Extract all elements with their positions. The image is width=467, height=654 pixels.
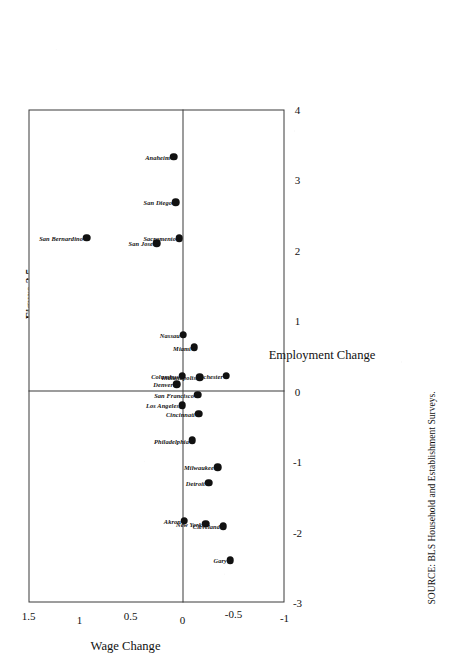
data-point xyxy=(226,556,234,564)
data-point-label: Philadelphia xyxy=(154,437,189,444)
data-point-label: San Francisco xyxy=(154,391,194,398)
scatter-chart: San BernardinoSan JoseSacramentoSan Dieg… xyxy=(1,110,313,603)
x-tick-label: 2 xyxy=(295,244,301,256)
data-point-label: Rochester xyxy=(195,372,222,379)
data-point xyxy=(173,380,181,388)
data-point-label: Cleveland xyxy=(192,523,219,530)
data-point-label: Miami xyxy=(173,344,191,351)
y-tick-label: -0.5 xyxy=(225,608,242,620)
data-point-label: San Bernardino xyxy=(40,234,84,241)
x-tick-label: -2 xyxy=(293,526,302,538)
data-point-label: Anaheim xyxy=(146,153,171,160)
y-tick-label: 1.5 xyxy=(22,610,36,622)
data-point xyxy=(194,391,202,399)
x-tick-label: 3 xyxy=(295,174,301,186)
data-point-label: Denver xyxy=(154,381,174,388)
data-point xyxy=(178,402,186,410)
x-tick-label: 4 xyxy=(295,104,301,116)
data-point-label: Detroit xyxy=(186,479,205,486)
data-point xyxy=(170,153,178,161)
y-tick-label: 0 xyxy=(179,614,185,626)
data-point-label: Los Angeles xyxy=(146,402,179,409)
x-tick-label: -3 xyxy=(293,597,302,609)
data-point-label: Gary xyxy=(213,557,227,564)
x-tick-label: 1 xyxy=(295,315,301,327)
data-point xyxy=(189,437,197,445)
y-axis-title: Wage Change xyxy=(91,639,161,654)
y-tick-label: -1 xyxy=(280,612,289,624)
data-point-label: Cincinnati xyxy=(166,410,195,417)
data-point-label: Milwaukee xyxy=(184,464,214,471)
data-point xyxy=(191,344,199,352)
data-point xyxy=(195,410,203,418)
source-note: SOURCE: BLS Household and Establishment … xyxy=(426,325,437,605)
data-point xyxy=(222,372,230,380)
data-point xyxy=(179,331,187,339)
zero-horizontal-line xyxy=(182,110,183,603)
x-tick-label: -1 xyxy=(293,456,302,468)
data-point-label: Indianapolis xyxy=(161,374,196,381)
data-point xyxy=(214,463,222,471)
x-tick-label: 0 xyxy=(295,385,301,397)
data-point xyxy=(175,235,183,243)
data-point-label: San Diego xyxy=(144,199,172,206)
data-point-label: Nassau xyxy=(159,331,179,338)
data-point xyxy=(219,523,227,531)
data-point xyxy=(205,479,213,487)
y-tick-label: 0.5 xyxy=(124,610,138,622)
x-axis-title: Employment Change xyxy=(269,349,376,364)
data-point xyxy=(83,234,91,242)
plot-frame xyxy=(29,110,285,603)
data-point-label: Sacramento xyxy=(143,235,176,242)
data-point xyxy=(172,199,180,207)
rotated-plot-container: San BernardinoSan JoseSacramentoSan Dieg… xyxy=(1,110,313,603)
y-tick-label: 1 xyxy=(77,614,83,626)
